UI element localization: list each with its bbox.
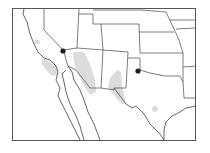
baja-west-coast xyxy=(56,72,80,140)
southern-new-mexico-trans-pecos xyxy=(108,70,126,104)
map-frame xyxy=(13,9,196,141)
western-arizona-band xyxy=(73,52,96,95)
southern-california-coast xyxy=(42,58,58,76)
central-california-patch xyxy=(34,40,40,45)
california-coast xyxy=(23,9,58,72)
ut-az-border xyxy=(64,48,128,52)
baja-gulf-shore xyxy=(62,70,84,140)
point-localities xyxy=(60,48,140,73)
range-map xyxy=(0,0,210,153)
nv-ut-border xyxy=(77,9,79,48)
ar-la-border xyxy=(183,66,196,67)
tx-la-border xyxy=(183,82,196,98)
stippled-areas xyxy=(34,40,158,113)
locality-marker-texas-panhandle xyxy=(135,68,140,73)
mo-border xyxy=(176,28,196,29)
co-ks-border xyxy=(139,24,140,53)
gulf-coast xyxy=(164,106,196,140)
ut-wy-border xyxy=(79,14,103,50)
locality-marker-nevada xyxy=(60,48,65,53)
az-nm-border xyxy=(101,50,103,88)
ne-border xyxy=(141,10,179,40)
central-texas-patch xyxy=(152,106,158,112)
coastlines xyxy=(23,9,196,140)
ca-nv-border xyxy=(44,9,68,66)
